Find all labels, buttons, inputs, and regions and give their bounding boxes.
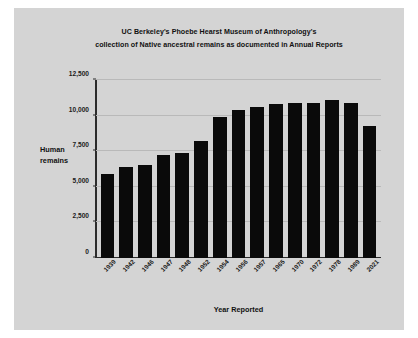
x-label-slot: 1948	[173, 260, 192, 300]
x-tick-label: 1957	[252, 258, 267, 273]
x-label-slot: 1946	[135, 260, 154, 300]
bar-slot	[154, 80, 173, 258]
x-axis-tick-labels: 1939194219461947194819521954195619571965…	[96, 260, 381, 300]
bar-slot	[267, 80, 286, 258]
bar	[344, 103, 358, 258]
chart-title: UC Berkeley's Phoebe Hearst Museum of An…	[64, 26, 374, 51]
x-label-slot: 1972	[304, 260, 323, 300]
x-label-slot: 1978	[323, 260, 342, 300]
y-tick-label: 10,000	[69, 105, 89, 112]
x-tick-label: 1942	[121, 258, 136, 273]
bar-slot	[360, 80, 379, 258]
bar	[269, 104, 283, 258]
bar	[194, 141, 208, 258]
x-tick-label: 1956	[233, 258, 248, 273]
x-tick-label: 1978	[327, 258, 342, 273]
bar	[232, 110, 246, 258]
x-label-slot: 1954	[210, 260, 229, 300]
x-label-slot: 1957	[248, 260, 267, 300]
x-label-slot: 2021	[360, 260, 379, 300]
x-tick-label: 1947	[159, 258, 174, 273]
bar	[101, 174, 115, 258]
x-tick-label: 2021	[365, 258, 380, 273]
bar	[175, 153, 189, 258]
bar	[363, 126, 377, 258]
x-label-slot: 1989	[342, 260, 361, 300]
bar-slot	[192, 80, 211, 258]
bar	[325, 100, 339, 258]
x-tick-label: 1939	[102, 258, 117, 273]
x-tick-label: 1952	[196, 258, 211, 273]
x-tick-label: 1972	[308, 258, 323, 273]
bar-slot	[210, 80, 229, 258]
x-tick-label: 1970	[290, 258, 305, 273]
x-label-slot: 1939	[98, 260, 117, 300]
x-label-slot: 1970	[285, 260, 304, 300]
y-axis-title: Human remains	[40, 145, 88, 166]
x-label-slot: 1965	[267, 260, 286, 300]
bar	[157, 155, 171, 258]
bar	[138, 165, 152, 258]
x-tick-label: 1965	[271, 258, 286, 273]
x-tick-label: 1948	[177, 258, 192, 273]
chart-title-line-2: collection of Native ancestral remains a…	[64, 39, 374, 52]
bar-slot	[117, 80, 136, 258]
plot-area: 02,5005,0007,50010,00012,500	[96, 80, 381, 258]
bar-slot	[323, 80, 342, 258]
bar	[307, 103, 321, 258]
bar-slot	[229, 80, 248, 258]
bar-slot	[304, 80, 323, 258]
bar-slot	[342, 80, 361, 258]
bar-slot	[248, 80, 267, 258]
chart-title-line-1: UC Berkeley's Phoebe Hearst Museum of An…	[64, 26, 374, 39]
x-label-slot: 1947	[154, 260, 173, 300]
x-label-slot: 1952	[192, 260, 211, 300]
y-tick-label: 7,500	[72, 141, 89, 148]
x-tick-label: 1954	[215, 258, 230, 273]
bar-slot	[98, 80, 117, 258]
bar	[213, 117, 227, 258]
bar-slot	[173, 80, 192, 258]
y-tick-label: 12,500	[69, 70, 89, 77]
x-label-slot: 1956	[229, 260, 248, 300]
chart-figure: UC Berkeley's Phoebe Hearst Museum of An…	[14, 8, 404, 330]
bar	[250, 107, 264, 258]
y-tick-label: 0	[85, 248, 89, 255]
y-tick-label: 5,000	[72, 176, 89, 183]
y-tick-label: 2,500	[72, 212, 89, 219]
bar-slot	[135, 80, 154, 258]
x-tick-label: 1946	[140, 258, 155, 273]
x-label-slot: 1942	[117, 260, 136, 300]
x-axis-title: Year Reported	[96, 305, 381, 314]
bar	[119, 167, 133, 258]
bar	[288, 103, 302, 258]
x-tick-label: 1989	[346, 258, 361, 273]
bar-slot	[285, 80, 304, 258]
bar-series	[96, 80, 381, 258]
